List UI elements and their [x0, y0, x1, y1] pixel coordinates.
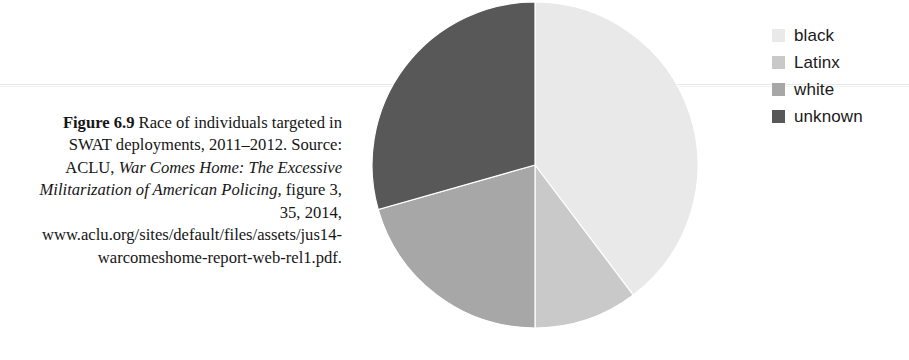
legend-item-latinx[interactable]: Latinx [772, 49, 863, 76]
legend-label-unknown: unknown [794, 107, 863, 127]
legend-swatch-white [772, 83, 785, 96]
legend-label-white: white [794, 80, 834, 100]
legend-item-unknown[interactable]: unknown [772, 103, 863, 130]
pie-slice-group [372, 2, 698, 328]
legend-label-black: black [794, 26, 834, 46]
chart-legend: black Latinx white unknown [772, 22, 863, 130]
legend-swatch-latinx [772, 56, 785, 69]
pie-chart-svg [372, 2, 698, 328]
legend-item-white[interactable]: white [772, 76, 863, 103]
figure-caption: Figure 6.9 Race of individuals targeted … [24, 112, 342, 269]
legend-item-black[interactable]: black [772, 22, 863, 49]
legend-swatch-black [772, 29, 785, 42]
legend-swatch-unknown [772, 110, 785, 123]
legend-label-latinx: Latinx [794, 53, 840, 73]
pie-chart [372, 2, 698, 328]
figure-number: Figure 6.9 [63, 113, 135, 132]
